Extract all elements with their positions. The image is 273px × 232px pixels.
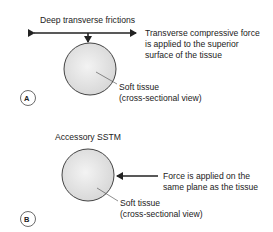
tissue-label-a-line-2: (cross-sectional view) bbox=[119, 93, 202, 104]
technique-title-a: Deep transverse frictions bbox=[40, 15, 135, 26]
force-note-b-line-2: same plane as the tissue bbox=[163, 182, 258, 193]
force-note-a-line-3: surface of the tissue bbox=[145, 50, 222, 61]
panel-label-a: A bbox=[24, 93, 29, 104]
tissue-label-a-line-1: Soft tissue bbox=[119, 82, 159, 93]
panel-label-b: B bbox=[24, 214, 29, 225]
tissue-label-b-line-2: (cross-sectional view) bbox=[120, 209, 203, 220]
force-note-a-line-2: is applied to the superior bbox=[145, 39, 239, 50]
soft-tissue-circle-a bbox=[64, 43, 116, 95]
soft-tissue-circle-b bbox=[62, 149, 114, 201]
force-note-a-line-1: Transverse compressive force bbox=[145, 28, 260, 39]
tissue-label-b-line-1: Soft tissue bbox=[120, 198, 160, 209]
force-note-b-line-1: Force is applied on the bbox=[163, 171, 250, 182]
technique-title-b: Accessory SSTM bbox=[55, 132, 121, 143]
